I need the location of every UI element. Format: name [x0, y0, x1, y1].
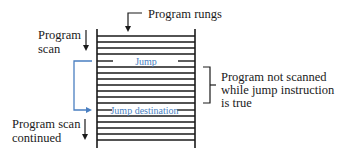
arrow-down-icon [82, 134, 88, 140]
skipped-section-note: Program not scanned while jump instructi… [221, 70, 335, 110]
note-line3: is true [221, 96, 252, 110]
bracket-line [203, 67, 210, 103]
program-scan-label-group: Program scan [38, 28, 89, 56]
ladder: Jump Jump destination [97, 29, 195, 148]
note-line2: while jump instruction [221, 83, 335, 97]
jump-path-line [74, 61, 92, 110]
rungs [97, 36, 195, 140]
program-rungs-callout: Program rungs [125, 7, 222, 32]
arrow-down-icon [83, 45, 89, 51]
arrow-right-icon [86, 107, 92, 113]
program-scan-label-line2: scan [38, 42, 61, 56]
program-scan-continued-line2: continued [12, 131, 62, 145]
program-scan-continued-line1: Program scan [12, 117, 81, 131]
skipped-section-bracket [203, 67, 216, 103]
jump-bracket [74, 61, 92, 110]
jump-destination-label: Jump destination [110, 105, 178, 116]
note-line1: Program not scanned [221, 70, 327, 84]
ladder-jump-diagram: Program rungs [0, 0, 352, 158]
arrow-down-icon [125, 26, 131, 32]
jump-label: Jump [135, 56, 157, 67]
program-scan-continued-label-group: Program scan continued [12, 117, 88, 145]
program-scan-label-line1: Program [38, 28, 81, 42]
program-rungs-label: Program rungs [148, 7, 222, 21]
callout-leader-line [128, 13, 142, 28]
